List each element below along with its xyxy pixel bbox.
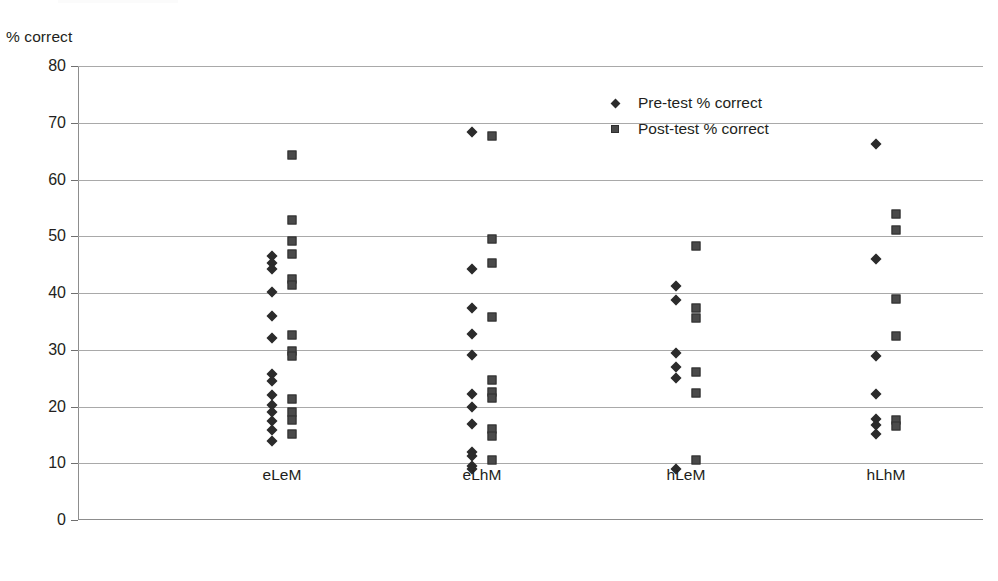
y-tick-50 [71, 236, 78, 237]
post-test-point [288, 249, 297, 258]
post-test-point [692, 456, 701, 465]
gridline-10 [78, 463, 983, 464]
post-test-point [288, 330, 297, 339]
square-marker-icon [604, 125, 626, 133]
legend-label-pre-test: Pre-test % correct [638, 94, 762, 112]
legend-item-post-test: Post-test % correct [604, 116, 834, 142]
post-test-point [692, 313, 701, 322]
y-tick-label-60: 60 [48, 171, 66, 189]
post-test-point [892, 226, 901, 235]
y-tick-label-10: 10 [48, 454, 66, 472]
post-test-point [488, 375, 497, 384]
post-test-point [488, 455, 497, 464]
post-test-point [288, 281, 297, 290]
y-tick-80 [71, 66, 78, 67]
y-tick-0 [71, 520, 78, 521]
y-tick-20 [71, 407, 78, 408]
gridline-30 [78, 350, 983, 351]
post-test-point [692, 367, 701, 376]
y-tick-label-70: 70 [48, 114, 66, 132]
scan-artifact [58, 0, 178, 3]
x-tick-label-eLeM: eLeM [263, 466, 302, 484]
post-test-point [288, 395, 297, 404]
post-test-point [288, 415, 297, 424]
y-tick-label-20: 20 [48, 398, 66, 416]
chart-legend: Pre-test % correct Post-test % correct [604, 90, 834, 142]
y-tick-60 [71, 180, 78, 181]
post-test-point [488, 235, 497, 244]
post-test-point [288, 150, 297, 159]
y-tick-70 [71, 123, 78, 124]
post-test-point [288, 429, 297, 438]
legend-item-pre-test: Pre-test % correct [604, 90, 834, 116]
post-test-point [892, 422, 901, 431]
post-test-point [892, 210, 901, 219]
post-test-point [488, 132, 497, 141]
gridline-80 [78, 66, 983, 67]
y-tick-40 [71, 293, 78, 294]
gridline-60 [78, 180, 983, 181]
x-tick-label-hLhM: hLhM [867, 466, 906, 484]
post-test-point [692, 242, 701, 251]
gridline-50 [78, 236, 983, 237]
post-test-point [488, 312, 497, 321]
post-test-point [892, 295, 901, 304]
plot-area [78, 66, 983, 520]
y-tick-label-80: 80 [48, 57, 66, 75]
post-test-point [692, 388, 701, 397]
y-tick-label-40: 40 [48, 284, 66, 302]
post-test-point [488, 393, 497, 402]
post-test-point [288, 216, 297, 225]
post-test-point [892, 332, 901, 341]
diamond-marker-icon [604, 100, 626, 107]
x-tick-label-eLhM: eLhM [463, 466, 502, 484]
gridline-40 [78, 293, 983, 294]
y-tick-label-0: 0 [57, 511, 66, 529]
gridline-70 [78, 123, 983, 124]
gridline-20 [78, 407, 983, 408]
y-tick-label-30: 30 [48, 341, 66, 359]
post-test-point [488, 432, 497, 441]
post-test-point [488, 259, 497, 268]
post-test-point [288, 236, 297, 245]
post-test-point [288, 351, 297, 360]
x-tick-label-hLeM: hLeM [667, 466, 706, 484]
post-test-point [692, 304, 701, 313]
y-tick-label-50: 50 [48, 227, 66, 245]
y-axis-title: % correct [6, 28, 72, 46]
legend-label-post-test: Post-test % correct [638, 120, 769, 138]
y-tick-30 [71, 350, 78, 351]
scatter-chart-figure: % correct 01020304050607080 eLeMeLhMhLeM… [0, 0, 998, 581]
y-tick-10 [71, 463, 78, 464]
